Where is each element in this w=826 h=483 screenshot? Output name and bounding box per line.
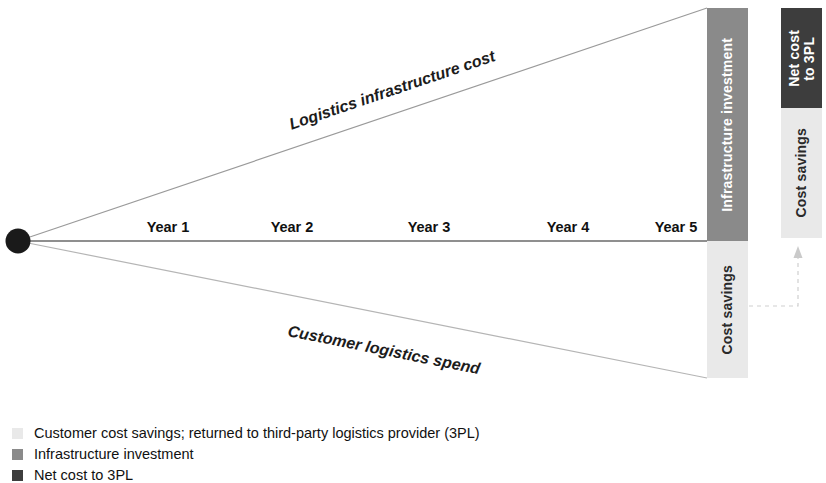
legend-label-infrastructure-investment: Infrastructure investment xyxy=(34,447,194,462)
year-label-2: Year 2 xyxy=(271,219,314,235)
bar-segment-cost-savings-label: Cost savings xyxy=(720,265,735,355)
year-label-4: Year 4 xyxy=(547,219,590,235)
origin-dot xyxy=(6,229,31,254)
year-label-5: Year 5 xyxy=(655,219,698,235)
legend-label-net-cost-to-3pl: Net cost to 3PL xyxy=(34,468,133,483)
logistics-infrastructure-cost-line xyxy=(18,8,707,241)
bar-segment-cost-savings: Cost savings xyxy=(707,241,748,378)
bar-segment-net-cost-to-3pl: Net costto 3PL xyxy=(781,8,822,108)
bar-segment-net-cost-label: Net costto 3PL xyxy=(787,30,816,87)
legend-swatch-icon-customer-cost-savings xyxy=(12,428,23,439)
chart-canvas: Year 1 Year 2 Year 3 Year 4 Year 5 Logis… xyxy=(0,0,826,400)
year-label-1: Year 1 xyxy=(147,219,190,235)
legend-label-customer-cost-savings: Customer cost savings; returned to third… xyxy=(34,426,480,441)
net-cost-bar: Net costto 3PL Cost savings xyxy=(781,8,822,238)
bar-segment-infrastructure-investment: Infrastructure investment xyxy=(707,8,748,241)
year5-outcome-bar: Infrastructure investment Cost savings xyxy=(707,8,748,378)
net-cost-line2: to 3PL xyxy=(801,36,817,80)
bar-segment-net-cost-savings: Cost savings xyxy=(781,108,822,238)
chart-vector-layer xyxy=(0,0,826,400)
bar-segment-infrastructure-label: Infrastructure investment xyxy=(720,38,735,212)
legend: Customer cost savings; returned to third… xyxy=(12,424,812,483)
legend-swatch-icon-infrastructure-investment xyxy=(12,449,23,460)
customer-logistics-spend-line xyxy=(18,241,707,378)
legend-item-net-cost-to-3pl: Net cost to 3PL xyxy=(12,466,812,483)
legend-swatch-icon-net-cost-to-3pl xyxy=(12,470,23,481)
legend-item-infrastructure-investment: Infrastructure investment xyxy=(12,445,812,464)
legend-item-customer-cost-savings: Customer cost savings; returned to third… xyxy=(12,424,812,443)
bar-segment-net-cost-savings-label: Cost savings xyxy=(794,128,809,218)
transfer-arrowhead-icon xyxy=(794,246,803,258)
year-label-3: Year 3 xyxy=(408,219,451,235)
net-cost-line1: Net cost xyxy=(786,30,802,87)
